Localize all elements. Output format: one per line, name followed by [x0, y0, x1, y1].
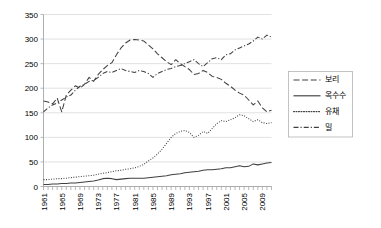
- legend-label-보리: 보리: [325, 75, 339, 84]
- x-axis-tick-label: 1969: [76, 192, 85, 210]
- x-axis-tick-label: 1961: [40, 192, 49, 210]
- x-axis-tick-label: 2009: [258, 192, 267, 210]
- y-axis-tick-label: 100: [25, 133, 39, 142]
- x-axis-tick-labels: 1961196519691973197719811985198919931997…: [40, 192, 268, 210]
- legend-label-밀: 밀: [325, 123, 332, 132]
- y-axis-tick-label: 350: [25, 11, 39, 20]
- x-axis-tick-label: 2001: [222, 192, 231, 210]
- x-axis-tick-label: 1985: [149, 192, 158, 210]
- y-axis-tick-label: 150: [25, 109, 39, 118]
- x-axis-tick-label: 1977: [112, 192, 121, 210]
- legend-label-옥수수: 옥수수: [325, 91, 346, 100]
- x-axis-tick-label: 1989: [167, 192, 176, 210]
- series-line-보리: [44, 40, 272, 112]
- y-axis-tick-label: 200: [25, 84, 39, 93]
- x-axis-tick-label: 2005: [240, 192, 249, 210]
- gridlines: [44, 15, 272, 187]
- x-axis-tick-label: 1965: [58, 192, 67, 210]
- line-chart: 050100150200250300350 196119651969197319…: [0, 0, 381, 228]
- y-axis-tick-label: 250: [25, 60, 39, 69]
- chart-legend: 보리옥수수유채밀: [289, 72, 353, 138]
- y-axis-tick-label: 300: [25, 35, 39, 44]
- y-axis: [41, 15, 44, 187]
- x-axis-tick-label: 1981: [131, 192, 140, 210]
- x-axis-tick-label: 1973: [94, 192, 103, 210]
- y-axis-tick-label: 0: [34, 183, 39, 192]
- x-axis: [44, 187, 272, 191]
- legend-label-유채: 유채: [325, 106, 339, 116]
- chart-container: 050100150200250300350 196119651969197319…: [0, 0, 381, 228]
- y-axis-tick-labels: 050100150200250300350: [25, 11, 39, 192]
- series-line-밀: [44, 35, 272, 112]
- x-axis-tick-label: 1993: [185, 192, 194, 210]
- series-line-옥수수: [44, 162, 272, 184]
- series-line-유채: [44, 115, 272, 180]
- x-axis-tick-label: 1997: [204, 192, 213, 210]
- y-axis-tick-label: 50: [29, 158, 38, 167]
